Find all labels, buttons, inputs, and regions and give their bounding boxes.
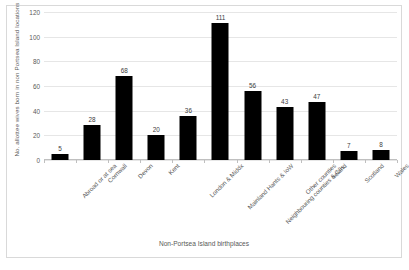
bar-slot: 47: [301, 12, 333, 160]
bar[interactable]: [276, 107, 293, 160]
bar-value-label: 111: [216, 14, 226, 21]
bar[interactable]: [148, 135, 165, 160]
bar[interactable]: [340, 151, 357, 160]
bar-slot: 56: [237, 12, 269, 160]
bar-slot: 111: [204, 12, 236, 160]
bar-slot: 8: [365, 12, 397, 160]
bar-slot: 68: [108, 12, 140, 160]
bar[interactable]: [212, 23, 229, 160]
chart-container: No. allottee wives born in non Portsea I…: [0, 0, 409, 270]
bar-value-label: 5: [58, 145, 62, 152]
bar-value-label: 20: [153, 126, 160, 133]
y-axis-tick-label: 20: [33, 132, 40, 139]
y-axis-tick-label: 100: [29, 33, 40, 40]
y-axis-tick-label: 0: [36, 157, 40, 164]
bar-value-label: 36: [185, 107, 192, 114]
bar-slot: 5: [44, 12, 76, 160]
bar-value-label: 28: [89, 116, 96, 123]
x-axis-category-label: Mainland Hants & IoW: [246, 162, 294, 210]
x-axis-tick: [397, 160, 398, 163]
bar-value-label: 47: [313, 93, 320, 100]
gridline: [44, 160, 397, 161]
bar-slot: 36: [172, 12, 204, 160]
bar-slot: 28: [76, 12, 108, 160]
y-axis-tick-label: 60: [33, 83, 40, 90]
y-axis-tick-label: 40: [33, 107, 40, 114]
bar-value-label: 8: [379, 141, 383, 148]
x-axis-category-labels: Abroad or at seaCornwallDevonKentLondon …: [44, 162, 397, 232]
bar[interactable]: [84, 125, 101, 160]
bar-series: 52868203611156434778: [44, 12, 397, 160]
bar[interactable]: [52, 154, 69, 160]
plot-area: 020406080100120 52868203611156434778: [44, 12, 397, 160]
bar[interactable]: [116, 76, 133, 160]
y-axis-title: No. allottee wives born in non Portsea I…: [13, 0, 20, 170]
bar-value-label: 43: [281, 98, 288, 105]
bar[interactable]: [372, 150, 389, 160]
bar-slot: 7: [333, 12, 365, 160]
x-axis-category-label: London & Middx: [209, 162, 246, 199]
bar[interactable]: [308, 102, 325, 160]
y-axis-tick-label: 80: [33, 58, 40, 65]
bar-slot: 43: [269, 12, 301, 160]
bar-value-label: 56: [249, 82, 256, 89]
x-axis-category-label: Kent: [167, 162, 181, 176]
x-axis-title: Non-Portsea Island birthplaces: [6, 240, 402, 247]
bar-slot: 20: [140, 12, 172, 160]
y-axis-tick-label: 120: [29, 9, 40, 16]
bar-value-label: 7: [347, 142, 351, 149]
x-axis-category-label: Scotland: [363, 162, 385, 184]
bar[interactable]: [244, 91, 261, 160]
bar[interactable]: [180, 116, 197, 160]
bar-value-label: 68: [121, 67, 128, 74]
x-axis-category-label: Devon: [137, 162, 155, 180]
